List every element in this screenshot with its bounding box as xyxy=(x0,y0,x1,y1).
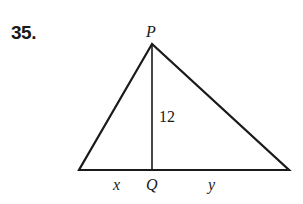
vertex-p-label: P xyxy=(145,23,156,40)
segment-y-label: y xyxy=(206,176,216,194)
altitude-length-label: 12 xyxy=(159,108,175,125)
triangle-outline xyxy=(79,44,289,170)
foot-q-label: Q xyxy=(146,176,158,193)
triangle-diagram: P 12 x Q y xyxy=(0,0,303,204)
segment-x-label: x xyxy=(112,176,120,193)
